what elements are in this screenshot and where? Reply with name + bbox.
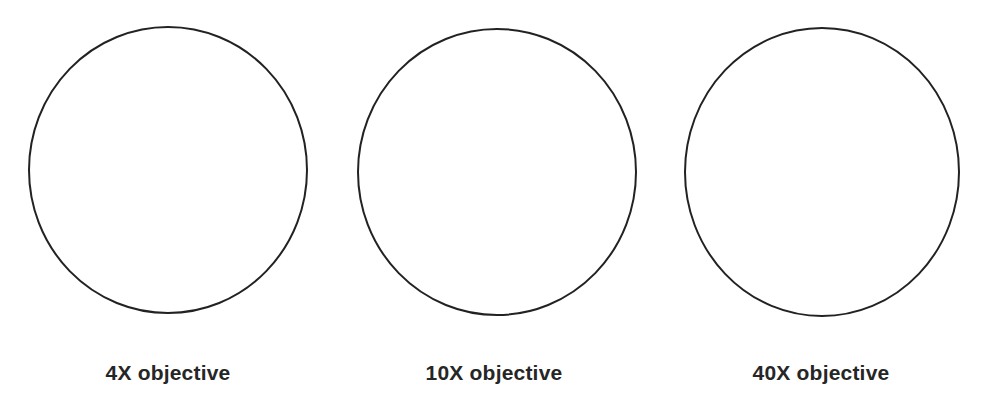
fields-of-view-diagram: 4X objective 10X objective 40X objective	[0, 0, 988, 409]
circles-canvas	[0, 0, 988, 409]
label-4x-objective: 4X objective	[48, 360, 288, 386]
field-of-view-circle-40x	[685, 28, 959, 316]
label-40x-objective: 40X objective	[701, 360, 941, 386]
label-10x-objective: 10X objective	[374, 360, 614, 386]
field-of-view-circle-10x	[358, 29, 636, 315]
field-of-view-circle-4x	[29, 27, 307, 313]
